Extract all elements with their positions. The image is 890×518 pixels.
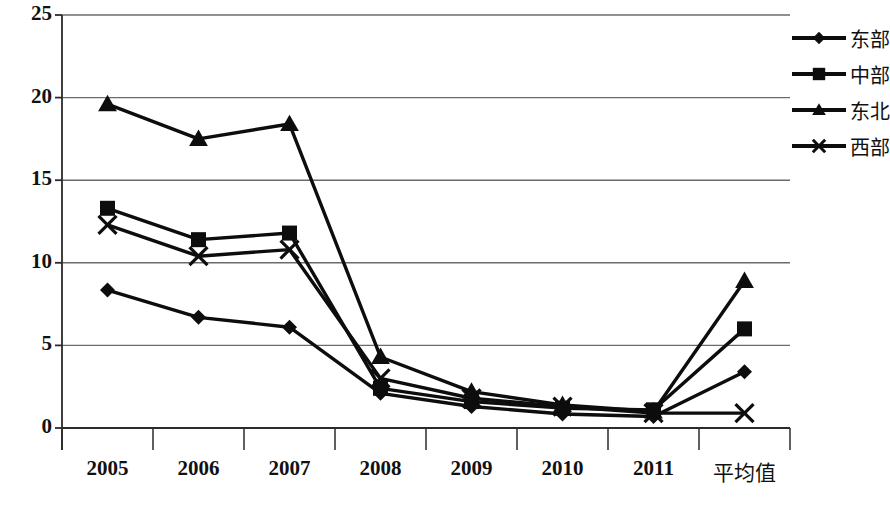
x-axis-label-2: 2007 bbox=[244, 456, 336, 481]
x-axis-label-1: 2006 bbox=[153, 456, 245, 481]
series-1-point-2 bbox=[282, 226, 297, 241]
legend-label-1: 中部 bbox=[850, 60, 890, 89]
cross-marker-icon-glyph bbox=[811, 138, 827, 154]
x-axis-ticks bbox=[62, 428, 790, 450]
series-line-0 bbox=[108, 290, 745, 416]
triangle-marker-icon bbox=[792, 98, 846, 122]
x-axis-label-6: 2011 bbox=[608, 456, 700, 481]
y-axis-label-0: 0 bbox=[6, 414, 52, 439]
legend-label-0: 东部 bbox=[850, 24, 890, 53]
diamond-marker-icon-glyph bbox=[811, 30, 827, 46]
y-axis-label-15: 15 bbox=[6, 166, 52, 191]
series-0-point-1 bbox=[191, 310, 206, 325]
x-axis-label-5: 2010 bbox=[517, 456, 609, 481]
series-0-point-0 bbox=[100, 283, 115, 298]
legend-item-东部[interactable]: 东部 bbox=[792, 20, 882, 56]
series-1-point-7 bbox=[737, 321, 752, 336]
chart-legend: 东部中部东北西部 bbox=[792, 20, 882, 164]
y-axis-label-20: 20 bbox=[6, 84, 52, 109]
series-2-point-2 bbox=[280, 115, 299, 131]
diamond-marker-icon bbox=[792, 26, 846, 50]
legend-label-3: 西部 bbox=[850, 132, 890, 161]
legend-item-东北[interactable]: 东北 bbox=[792, 92, 882, 128]
series-0-point-7 bbox=[737, 364, 752, 379]
legend-item-中部[interactable]: 中部 bbox=[792, 56, 882, 92]
series-2-point-3 bbox=[371, 348, 390, 364]
y-axis-label-25: 25 bbox=[6, 1, 52, 26]
y-axis-label-10: 10 bbox=[6, 249, 52, 274]
legend-item-西部[interactable]: 西部 bbox=[792, 128, 882, 164]
square-marker-icon bbox=[792, 62, 846, 86]
x-axis-label-7: 平均值 bbox=[699, 456, 791, 486]
x-axis-label-4: 2009 bbox=[426, 456, 518, 481]
series-line-2 bbox=[108, 104, 745, 411]
y-axis-label-5: 5 bbox=[6, 331, 52, 356]
gridlines bbox=[62, 15, 790, 428]
x-axis-label-0: 2005 bbox=[62, 456, 154, 481]
series-1-point-1 bbox=[191, 232, 206, 247]
series-2-point-7 bbox=[735, 272, 754, 288]
square-marker-icon-glyph bbox=[811, 66, 827, 82]
triangle-marker-icon-glyph bbox=[811, 102, 827, 118]
x-axis-label-3: 2008 bbox=[335, 456, 427, 481]
series-1-point-0 bbox=[100, 201, 115, 216]
cross-marker-icon bbox=[792, 134, 846, 158]
legend-label-2: 东北 bbox=[850, 96, 890, 125]
